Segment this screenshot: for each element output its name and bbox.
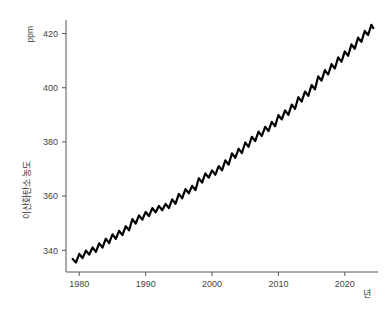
y-axis-title: 이산화탄소 농도 bbox=[22, 161, 32, 220]
x-tick-label: 2000 bbox=[202, 279, 222, 289]
x-tick-label: 1990 bbox=[136, 279, 156, 289]
y-axis-ticks: 340360380400420 bbox=[43, 29, 66, 256]
y-tick-label: 340 bbox=[43, 246, 58, 256]
chart-canvas: 340360380400420 19801990200020102020 ppm… bbox=[0, 0, 392, 314]
y-tick-label: 360 bbox=[43, 191, 58, 201]
y-tick-label: 420 bbox=[43, 29, 58, 39]
data-series-group bbox=[73, 25, 374, 263]
x-axis-ticks: 19801990200020102020 bbox=[69, 272, 355, 289]
y-tick-label: 380 bbox=[43, 137, 58, 147]
co2-concentration-chart: 340360380400420 19801990200020102020 ppm… bbox=[0, 0, 392, 314]
x-tick-label: 2020 bbox=[335, 279, 355, 289]
y-tick-label: 400 bbox=[43, 83, 58, 93]
x-tick-label: 1980 bbox=[69, 279, 89, 289]
co2-line-series bbox=[73, 25, 374, 263]
x-axis-title: 년 bbox=[363, 289, 371, 299]
y-axis-unit-label: ppm bbox=[25, 26, 35, 43]
x-tick-label: 2010 bbox=[268, 279, 288, 289]
